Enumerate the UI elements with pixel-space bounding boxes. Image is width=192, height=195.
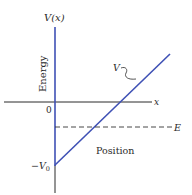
x-axis-label: x — [154, 97, 159, 107]
y-axis-title: Energy — [37, 55, 48, 92]
x-axis-title: Position — [96, 145, 134, 156]
potential-leader — [121, 67, 136, 79]
potential-energy-diagram: V(x) Energy x Position 0 −V0 V E — [0, 0, 192, 195]
y-axis-label: V(x) — [44, 12, 65, 23]
potential-label: V — [113, 62, 121, 73]
min-potential-text: −V — [31, 160, 47, 171]
energy-label: E — [173, 122, 181, 133]
origin-label: 0 — [46, 105, 52, 115]
min-potential-label: −V0 — [31, 160, 50, 173]
min-potential-subscript: 0 — [46, 165, 50, 173]
